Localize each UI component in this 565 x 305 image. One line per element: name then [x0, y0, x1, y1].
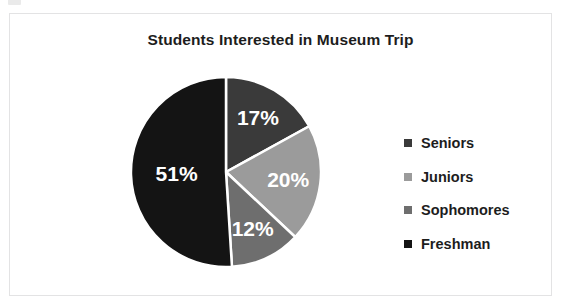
pie-svg: 17%20%12%51% [126, 72, 326, 272]
legend-swatch-icon-sophomores [404, 206, 412, 214]
chart-frame: Students Interested in Museum Trip 17%20… [9, 13, 552, 296]
legend-label-seniors: Seniors [421, 135, 474, 151]
pie-slice-value-juniors: 20% [267, 168, 309, 191]
legend-swatch-icon-seniors [404, 139, 412, 147]
legend-item-freshman[interactable]: Freshman [404, 233, 554, 255]
scan-artifact [8, 0, 21, 5]
legend-label-juniors: Juniors [421, 169, 473, 185]
legend-item-juniors[interactable]: Juniors [404, 166, 554, 188]
legend-swatch-icon-juniors [404, 173, 412, 181]
chart-title: Students Interested in Museum Trip [10, 31, 551, 49]
pie-chart: 17%20%12%51% [126, 72, 326, 272]
legend-swatch-icon-freshman [404, 240, 412, 248]
legend-label-sophomores: Sophomores [421, 202, 510, 218]
legend-item-seniors[interactable]: Seniors [404, 132, 554, 154]
legend-label-freshman: Freshman [421, 236, 490, 252]
pie-slice-value-freshman: 51% [156, 162, 198, 185]
legend-item-sophomores[interactable]: Sophomores [404, 199, 554, 221]
pie-slice-value-seniors: 17% [237, 106, 279, 129]
chart-legend: Seniors Juniors Sophomores Freshman [404, 132, 554, 266]
pie-slice-value-sophomores: 12% [232, 217, 274, 240]
